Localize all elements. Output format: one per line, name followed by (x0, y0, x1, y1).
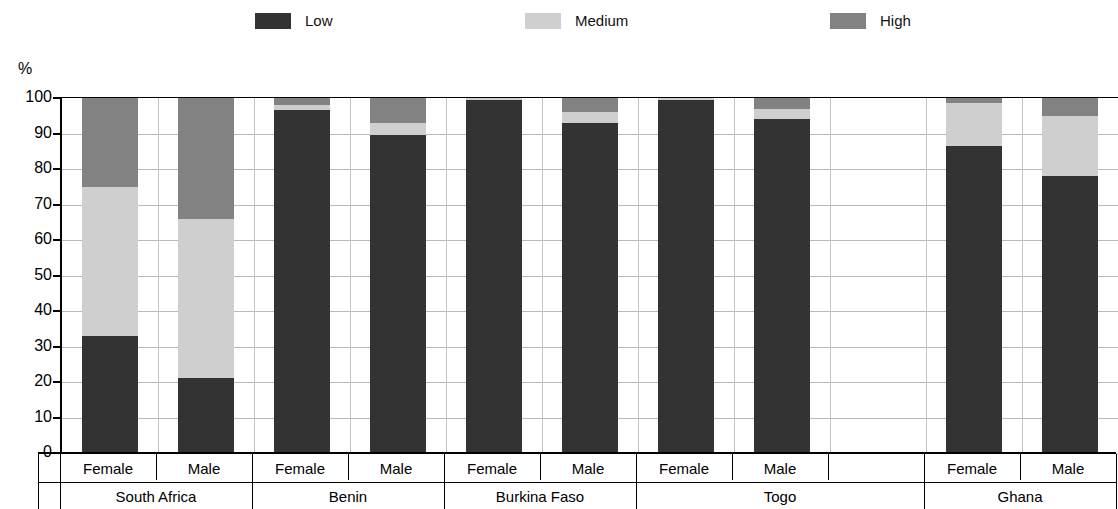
stacked-bar (658, 98, 714, 453)
bar-segment-high (562, 98, 618, 112)
x-axis-tick-divider (828, 454, 829, 480)
y-axis-tick-labels: 0102030405060708090100 (0, 97, 52, 453)
column-separator (1022, 98, 1023, 453)
bar-segment-low (562, 123, 618, 453)
column-separator (446, 98, 447, 453)
bar-segment-low (658, 100, 714, 453)
x-axis-group-divider (924, 454, 925, 509)
legend-swatch-medium-icon (525, 13, 561, 29)
legend-item-medium: Medium (525, 11, 628, 31)
column-separator (158, 98, 159, 453)
bar-segment-medium (754, 109, 810, 120)
plot-area (60, 97, 1118, 453)
stacked-bar (370, 98, 426, 453)
bar-segment-medium (1042, 116, 1098, 176)
x-axis-tick-divider (348, 454, 349, 480)
y-axis-tick (53, 204, 62, 206)
bar-segment-low (946, 146, 1002, 453)
x-axis-tick-divider (732, 454, 733, 480)
y-axis-tick-label: 10 (8, 409, 52, 425)
y-axis-tick (53, 346, 62, 348)
y-axis-tick-label: 60 (8, 231, 52, 247)
chart-area: % 0102030405060708090100 FemaleMaleFemal… (0, 44, 1116, 509)
stacked-bar (274, 98, 330, 453)
y-axis-tick-label: 70 (8, 196, 52, 212)
stacked-bar (82, 98, 138, 453)
bar-segment-low (1042, 176, 1098, 453)
bar-segment-low (754, 119, 810, 453)
column-separator (542, 98, 543, 453)
column-separator (734, 98, 735, 453)
y-axis-tick (53, 133, 62, 135)
bar-segment-medium (178, 219, 234, 379)
stacked-bar (946, 98, 1002, 453)
bar-segment-high (274, 98, 330, 105)
x-axis-left-edge (38, 454, 39, 509)
y-axis-tick (53, 381, 62, 383)
bar-segment-low (466, 100, 522, 453)
column-separator (926, 98, 927, 453)
column-separator (638, 98, 639, 453)
bar-segment-high (946, 98, 1002, 103)
y-axis-tick (53, 239, 62, 241)
stacked-bar (754, 98, 810, 453)
column-separator (830, 98, 831, 453)
chart-legend: Low Medium High (0, 0, 1116, 44)
bar-segment-medium (658, 98, 714, 100)
bar-segment-high (1042, 98, 1098, 116)
bar-segment-low (274, 110, 330, 453)
legend-label-high: High (880, 13, 911, 29)
bar-segment-high (370, 98, 426, 123)
legend-item-low: Low (255, 11, 333, 31)
bar-segment-medium (370, 123, 426, 135)
y-axis-tick (53, 168, 62, 170)
bar-segment-low (370, 135, 426, 453)
y-axis-tick (53, 97, 62, 99)
y-axis-tick-label: 40 (8, 302, 52, 318)
stacked-bar (178, 98, 234, 453)
bar-segment-low (82, 336, 138, 453)
legend-label-medium: Medium (575, 13, 628, 29)
y-axis-tick (53, 310, 62, 312)
x-axis-tick-divider (540, 454, 541, 480)
bar-segment-medium (562, 112, 618, 123)
legend-item-high: High (830, 11, 911, 31)
y-axis-tick-label: 30 (8, 338, 52, 354)
bar-segment-high (82, 98, 138, 187)
legend-swatch-low-icon (255, 13, 291, 29)
bar-segment-medium (466, 98, 522, 100)
stacked-bar (562, 98, 618, 453)
y-axis-tick (53, 275, 62, 277)
legend-swatch-high-icon (830, 13, 866, 29)
bar-segment-medium (946, 103, 1002, 146)
stacked-bar (466, 98, 522, 453)
y-axis-tick-label: 90 (8, 125, 52, 141)
column-separator (254, 98, 255, 453)
y-axis-tick-label: 50 (8, 267, 52, 283)
y-axis-unit-label: % (18, 61, 32, 77)
bar-segment-medium (274, 105, 330, 110)
x-axis-group-divider (60, 454, 61, 509)
y-axis-tick-label: 80 (8, 160, 52, 176)
column-separator (350, 98, 351, 453)
y-axis-tick-label: 20 (8, 373, 52, 389)
x-axis-group-divider (636, 454, 637, 509)
bar-segment-low (178, 378, 234, 453)
x-axis-tick-divider (1020, 454, 1021, 480)
x-axis-group-divider (1116, 454, 1117, 509)
bar-segment-high (178, 98, 234, 219)
x-axis-tick-dividers (38, 454, 1116, 509)
x-axis-tick-divider (156, 454, 157, 480)
bar-segment-high (754, 98, 810, 109)
x-axis-group-divider (444, 454, 445, 509)
bar-segment-medium (82, 187, 138, 336)
stacked-bar (1042, 98, 1098, 453)
y-axis-tick-label: 100 (8, 89, 52, 105)
x-axis-group-divider (252, 454, 253, 509)
legend-label-low: Low (305, 13, 333, 29)
y-axis-tick (53, 417, 62, 419)
